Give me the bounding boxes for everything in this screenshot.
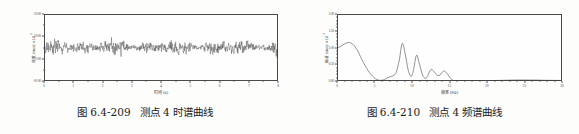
x-axis-label-frequency: 频率 (Hz) bbox=[441, 89, 459, 95]
x-minor-tick bbox=[367, 81, 368, 82]
x-minor-tick bbox=[397, 81, 398, 82]
x-tick-label: 4 bbox=[160, 84, 162, 88]
y-tick-mark bbox=[42, 36, 44, 37]
figure-frequency-spectrum: 幅值 (m/s) ×10-3 频率 (Hz) 0.000.501.001.502… bbox=[290, 0, 579, 134]
x-tick-label: 30 bbox=[560, 84, 563, 88]
x-tick-label: 5 bbox=[374, 84, 376, 88]
x-minor-tick bbox=[389, 81, 390, 82]
y-minor-tick bbox=[336, 60, 337, 61]
x-minor-tick bbox=[479, 81, 480, 82]
x-tick-mark bbox=[449, 81, 450, 83]
y-minor-tick bbox=[336, 17, 337, 18]
x-minor-tick bbox=[352, 81, 353, 82]
x-minor-tick bbox=[547, 81, 548, 82]
waveform-polyline bbox=[44, 37, 278, 58]
y-tick-mark bbox=[335, 14, 337, 15]
x-tick-mark bbox=[73, 81, 74, 83]
x-minor-tick bbox=[502, 81, 503, 82]
x-minor-tick bbox=[382, 81, 383, 82]
x-tick-mark bbox=[562, 81, 563, 83]
x-minor-tick bbox=[554, 81, 555, 82]
y-minor-tick bbox=[336, 74, 337, 75]
x-minor-tick bbox=[146, 81, 147, 82]
x-tick-label: 25 bbox=[523, 84, 526, 88]
x-minor-tick bbox=[442, 81, 443, 82]
y-minor-tick bbox=[336, 67, 337, 68]
figure-title-right: 测点 4 频谱曲线 bbox=[429, 106, 502, 118]
figure-number-left: 图 6.4-209 bbox=[77, 106, 131, 118]
y-minor-tick bbox=[336, 70, 337, 71]
x-minor-tick bbox=[344, 81, 345, 82]
x-tick-mark bbox=[102, 81, 103, 83]
y-minor-tick bbox=[336, 20, 337, 21]
y-tick-mark bbox=[335, 30, 337, 31]
y-minor-tick bbox=[336, 44, 337, 45]
figure-number-right: 图 6.4-210 bbox=[367, 106, 421, 118]
x-tick-label: 15 bbox=[448, 84, 451, 88]
x-minor-tick bbox=[234, 81, 235, 82]
y-minor-tick bbox=[43, 47, 44, 48]
y-minor-tick bbox=[336, 40, 337, 41]
y-tick-mark bbox=[335, 47, 337, 48]
figure-page: 速度 (m/s) ×10-2 时间 (s) -10.000.0010.0020.… bbox=[0, 0, 579, 134]
y-tick-mark bbox=[42, 14, 44, 15]
x-minor-tick bbox=[517, 81, 518, 82]
spectrum-path bbox=[337, 42, 562, 80]
x-minor-tick bbox=[509, 81, 510, 82]
x-tick-mark bbox=[524, 81, 525, 83]
x-minor-tick bbox=[117, 81, 118, 82]
figure-caption-left: 图 6.4-209测点 4 时谱曲线 bbox=[0, 104, 290, 119]
x-tick-label: 7 bbox=[248, 84, 250, 88]
y-tick-mark bbox=[335, 64, 337, 65]
x-minor-tick bbox=[494, 81, 495, 82]
x-tick-mark bbox=[131, 81, 132, 83]
x-tick-mark bbox=[278, 81, 279, 83]
x-tick-label: 0 bbox=[43, 84, 45, 88]
x-minor-tick bbox=[434, 81, 435, 82]
x-tick-mark bbox=[219, 81, 220, 83]
x-tick-mark bbox=[411, 81, 412, 83]
x-minor-tick bbox=[532, 81, 533, 82]
figure-title-left: 测点 4 时谱曲线 bbox=[140, 106, 213, 118]
y-minor-tick bbox=[43, 25, 44, 26]
x-minor-tick bbox=[404, 81, 405, 82]
y-minor-tick bbox=[336, 57, 337, 58]
plot-area-time-history: 速度 (m/s) ×10-2 时间 (s) -10.000.0010.0020.… bbox=[44, 14, 278, 81]
plot-area-frequency: 幅值 (m/s) ×10-3 频率 (Hz) 0.000.501.001.502… bbox=[337, 14, 562, 81]
x-minor-tick bbox=[359, 81, 360, 82]
y-minor-tick bbox=[336, 77, 337, 78]
y-minor-tick bbox=[336, 37, 337, 38]
x-minor-tick bbox=[457, 81, 458, 82]
x-minor-tick bbox=[472, 81, 473, 82]
x-tick-label: 3 bbox=[131, 84, 133, 88]
x-tick-label: 2 bbox=[102, 84, 104, 88]
x-tick-label: 0 bbox=[336, 84, 338, 88]
x-minor-tick bbox=[263, 81, 264, 82]
figure-time-history: 速度 (m/s) ×10-2 时间 (s) -10.000.0010.0020.… bbox=[0, 0, 290, 134]
x-tick-label: 8 bbox=[277, 84, 279, 88]
x-minor-tick bbox=[539, 81, 540, 82]
y-minor-tick bbox=[336, 27, 337, 28]
x-tick-label: 10 bbox=[410, 84, 413, 88]
x-minor-tick bbox=[204, 81, 205, 82]
x-tick-mark bbox=[248, 81, 249, 83]
x-tick-label: 20 bbox=[485, 84, 488, 88]
time-history-curve bbox=[44, 14, 278, 81]
y-minor-tick bbox=[336, 54, 337, 55]
x-tick-mark bbox=[44, 81, 45, 83]
y-minor-tick bbox=[336, 24, 337, 25]
x-tick-label: 6 bbox=[219, 84, 221, 88]
frequency-spectrum-curve bbox=[337, 14, 562, 81]
x-axis-label-time: 时间 (s) bbox=[154, 89, 168, 95]
y-minor-tick bbox=[336, 34, 337, 35]
x-minor-tick bbox=[419, 81, 420, 82]
x-minor-tick bbox=[464, 81, 465, 82]
x-minor-tick bbox=[427, 81, 428, 82]
x-tick-mark bbox=[374, 81, 375, 83]
x-minor-tick bbox=[175, 81, 176, 82]
figure-caption-right: 图 6.4-210测点 4 频谱曲线 bbox=[290, 104, 579, 119]
y-minor-tick bbox=[336, 50, 337, 51]
x-minor-tick bbox=[87, 81, 88, 82]
x-tick-mark bbox=[337, 81, 338, 83]
x-tick-mark bbox=[190, 81, 191, 83]
